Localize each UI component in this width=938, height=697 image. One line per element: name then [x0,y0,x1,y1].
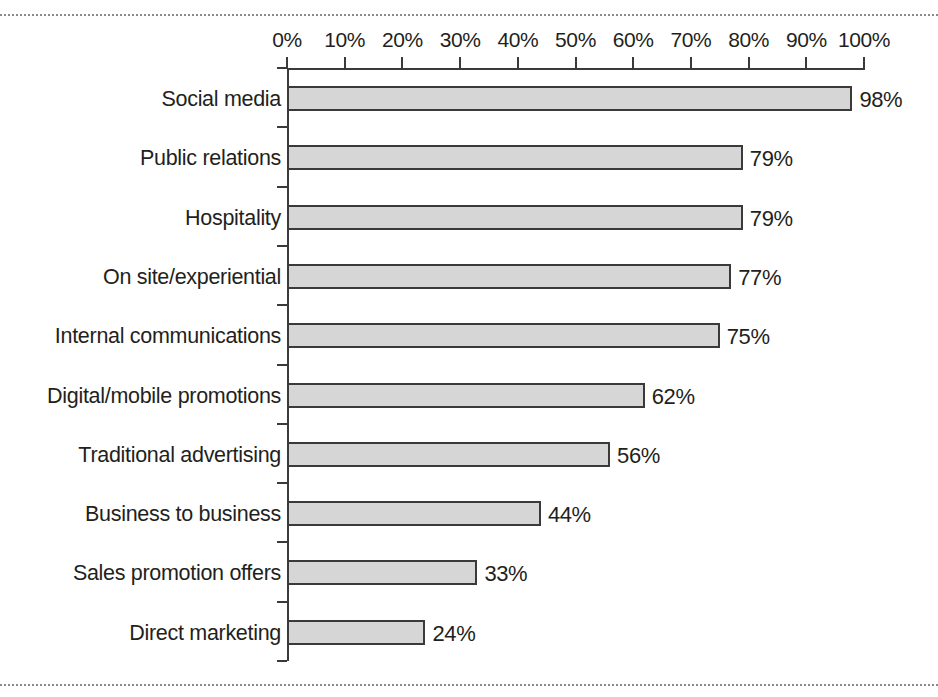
x-axis-tick [632,57,634,68]
x-axis-tick-label: 30% [440,28,481,52]
category-label: On site/experiential [0,265,281,290]
y-axis-tick [277,245,287,247]
x-axis-tick-label: 90% [786,28,827,52]
category-label-row: Public relations [0,146,281,171]
x-axis-tick-label: 50% [555,28,596,52]
category-label: Business to business [0,502,281,527]
category-label: Public relations [0,146,281,171]
category-label: Sales promotion offers [0,561,281,586]
bar-value-label: 33% [484,561,527,587]
y-axis-tick [277,126,287,128]
x-axis-tick-label: 10% [324,28,365,52]
x-axis-tick [344,57,346,68]
bar [287,205,743,230]
category-label-row: Social media [0,87,281,112]
category-label: Direct marketing [0,621,281,646]
y-axis-tick [277,601,287,603]
bar-value-label: 24% [432,621,475,647]
bar-value-label: 77% [738,265,781,291]
x-axis-tick-label: 40% [497,28,538,52]
category-label: Social media [0,87,281,112]
bar [287,560,477,585]
x-axis-tick [748,57,750,68]
chart-figure: 0%10%20%30%40%50%60%70%80%90%100%98%Soci… [0,0,938,697]
category-label-row: On site/experiential [0,265,281,290]
y-axis-tick [277,482,287,484]
category-label: Hospitality [0,206,281,231]
bar-value-label: 79% [750,146,793,172]
bar [287,501,541,526]
x-axis-tick [401,57,403,68]
x-axis-tick [517,57,519,68]
bar-value-label: 98% [859,87,902,113]
bar [287,145,743,170]
x-axis-tick [575,57,577,68]
x-axis-tick [690,57,692,68]
y-axis-tick [277,186,287,188]
category-label: Internal communications [0,324,281,349]
category-label: Traditional advertising [0,443,281,468]
x-axis-tick-label: 100% [838,28,890,52]
category-label-row: Internal communications [0,324,281,349]
bar [287,620,425,645]
x-axis-tick-label: 20% [382,28,423,52]
bar-value-label: 56% [617,443,660,469]
bar-value-label: 62% [652,384,695,410]
x-axis-line [287,68,865,70]
bar [287,264,731,289]
y-axis-tick [277,67,287,69]
category-label-row: Hospitality [0,206,281,231]
bar [287,383,645,408]
bar [287,323,720,348]
bar [287,86,852,111]
x-axis-tick-label: 80% [728,28,769,52]
y-axis-tick [277,304,287,306]
x-axis-tick-label: 70% [670,28,711,52]
category-label-row: Business to business [0,502,281,527]
category-label: Digital/mobile promotions [0,384,281,409]
x-axis-tick-label: 0% [272,28,302,52]
x-axis-tick [863,57,865,68]
y-axis-tick [277,660,287,662]
category-label-row: Traditional advertising [0,443,281,468]
x-axis-tick [805,57,807,68]
category-label-row: Digital/mobile promotions [0,384,281,409]
y-axis-tick [277,423,287,425]
bar-value-label: 79% [750,206,793,232]
bar-value-label: 75% [727,324,770,350]
x-axis-tick-label: 60% [613,28,654,52]
bar-value-label: 44% [548,502,591,528]
category-label-row: Direct marketing [0,621,281,646]
y-axis-tick [277,364,287,366]
x-axis-tick [459,57,461,68]
bar [287,442,610,467]
y-axis-tick [277,541,287,543]
category-label-row: Sales promotion offers [0,561,281,586]
bar-chart-plot-area: 0%10%20%30%40%50%60%70%80%90%100%98%Soci… [0,0,938,697]
